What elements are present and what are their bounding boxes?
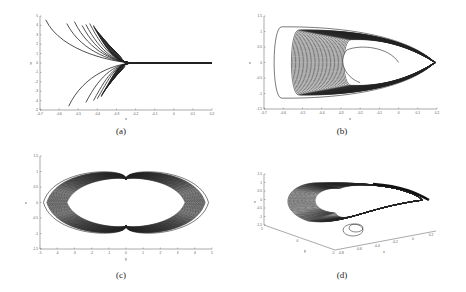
y-tick-label: 0 <box>260 61 262 65</box>
x-tick-label: 0.2 <box>210 112 215 116</box>
chart-panel-b: -0.7-0.6-0.5-0.4-0.3-0.2-0.100.10.2 1.51… <box>233 0 466 146</box>
y-tick-label: -0.5 <box>257 76 263 80</box>
y-tick-label: -1.5 <box>257 107 263 111</box>
x-tick-label: -0.5 <box>300 111 306 115</box>
y-tick-label: 0 <box>36 201 38 205</box>
x-tick-label: -0.1 <box>152 112 158 116</box>
y-tick-label: 1.5 <box>258 14 263 18</box>
x-axis-label: x <box>349 117 351 121</box>
x-tick-label: -0.5 <box>75 112 81 116</box>
y-tick-label: -4 <box>35 99 38 103</box>
x-tick-label: 1 <box>142 251 144 255</box>
x-tick-label: 4 <box>194 251 196 255</box>
x-tick-label: 0.2 <box>435 111 440 115</box>
y-tick-label: 1 <box>36 52 38 56</box>
y-axis-label: y <box>125 257 127 261</box>
x-tick-label: -0.6 <box>56 112 62 116</box>
y-axis-label: y <box>30 61 32 65</box>
x-tick-label: 0.1 <box>416 111 421 115</box>
x-tick-label: -1 <box>107 251 110 255</box>
x-tick-label: 0 <box>125 251 127 255</box>
z-tick-label: 1.5 <box>258 172 263 176</box>
z-tick-label: 0 <box>260 198 262 202</box>
y-tick-label: -1 <box>35 70 38 74</box>
z-axis-label: z <box>254 200 256 204</box>
chart-panel-c: -5-4-3-2-1012345 1.510.50-0.5-1-1.5 y z … <box>0 146 233 292</box>
y-tick-label: -1 <box>259 92 262 96</box>
x-tick-label: -0.7 <box>37 112 43 116</box>
chart-panel-a: -0.7-0.6-0.5-0.4-0.3-0.2-0.100.10.2 5432… <box>0 0 233 146</box>
y-tick-label: 2 <box>36 42 38 46</box>
y-tick-label: -0.5 <box>33 216 39 220</box>
x-tick-label: -0.7 <box>261 111 267 115</box>
z-axis-label: z <box>25 201 27 205</box>
z-tick-label: 1 <box>260 181 262 185</box>
y-tick-label: 0.5 <box>34 185 39 189</box>
x-tick-label: -0.3 <box>338 111 344 115</box>
z-tick-label: -0.5 <box>257 206 263 210</box>
y-tick-label: 5 <box>36 14 38 18</box>
x-tick-label: -0.3 <box>114 112 120 116</box>
chart-panel-d: 1.510.50-0.5-1-1.5 50-5 -0.8-0.6-0.4-0.2… <box>233 146 466 292</box>
x-tick-label: 0.1 <box>191 112 196 116</box>
y-tick-label: 1 <box>36 170 38 174</box>
y-tick-label: -3 <box>35 89 38 93</box>
chart-a-plot: -0.7-0.6-0.5-0.4-0.3-0.2-0.100.10.2 5432… <box>0 0 233 146</box>
x-tick-label: 0.2 <box>429 233 434 237</box>
x-tick-label: -4 <box>56 251 59 255</box>
y-tick-label: -1 <box>35 232 38 236</box>
x-tick-label: 0 <box>173 112 175 116</box>
y-tick-label: 0.5 <box>258 45 263 49</box>
x-tick-label: -0.4 <box>319 111 325 115</box>
x-tick-label: -3 <box>73 251 76 255</box>
x-tick-label: -0.2 <box>392 240 398 244</box>
caption-b: (b) <box>322 126 362 136</box>
y-tick-label: -5 <box>35 108 38 112</box>
x-axis-label: x <box>383 250 385 254</box>
x-tick-label: -0.2 <box>133 112 139 116</box>
x-tick-label: -2 <box>90 251 93 255</box>
y-tick-label: 5 <box>261 227 263 231</box>
y-tick-label: 0 <box>297 239 299 243</box>
caption-a: (a) <box>101 126 141 136</box>
y-tick-label: -2 <box>35 80 38 84</box>
x-tick-label: -0.2 <box>357 111 363 115</box>
z-tick-label: -1 <box>259 215 262 219</box>
x-tick-label: 0 <box>412 237 414 241</box>
y-tick-label: 0 <box>36 61 38 65</box>
x-tick-label: -0.6 <box>356 247 362 251</box>
y-tick-label: 3 <box>36 33 38 37</box>
z-tick-label: 0.5 <box>258 189 263 193</box>
chart-b-plot: -0.7-0.6-0.5-0.4-0.3-0.2-0.100.10.2 1.51… <box>233 0 466 146</box>
x-tick-label: -0.1 <box>377 111 383 115</box>
y-tick-label: 4 <box>36 23 38 27</box>
z-axis-label: z <box>249 61 251 65</box>
x-tick-label: 0 <box>398 111 400 115</box>
x-tick-label: -0.8 <box>338 251 344 255</box>
x-tick-label: -0.4 <box>95 112 101 116</box>
y-tick-label: -5 <box>332 251 335 255</box>
x-tick-label: -0.6 <box>280 111 286 115</box>
x-tick-label: 5 <box>211 251 213 255</box>
y-tick-label: 1 <box>260 30 262 34</box>
x-tick-label: -5 <box>39 251 42 255</box>
y-tick-label: 1.5 <box>34 154 39 158</box>
x-tick-label: -0.4 <box>374 244 380 248</box>
y-axis-label: y <box>304 249 306 253</box>
x-tick-label: 2 <box>160 251 162 255</box>
x-axis-label: x <box>125 117 127 121</box>
x-tick-label: 3 <box>177 251 179 255</box>
caption-d: (d) <box>322 270 362 280</box>
y-tick-label: -1.5 <box>33 247 39 251</box>
caption-c: (c) <box>101 270 141 280</box>
